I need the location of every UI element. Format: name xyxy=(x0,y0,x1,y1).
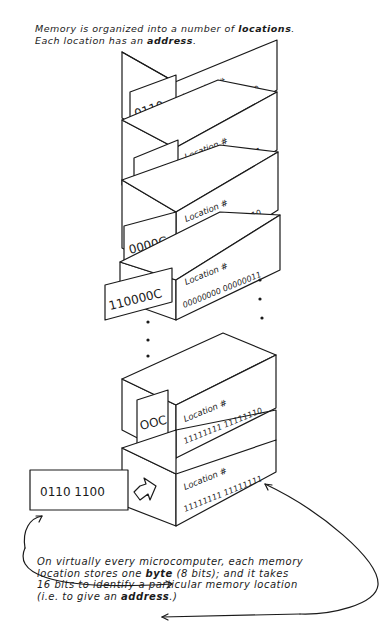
memory-diagram: 0110 Location # 00000000 00000000 1111 L… xyxy=(0,0,392,641)
memory-block-4: OOC Location # 11111111 11111110 xyxy=(122,333,276,458)
byte-card: 0110 1100 xyxy=(30,470,128,510)
bottom-caption: On virtually every microcomputer, each m… xyxy=(37,556,337,602)
bottom-caption-line-3: 16 bits to identify a particular memory … xyxy=(37,579,337,591)
bottom-caption-line-1: On virtually every microcomputer, each m… xyxy=(37,556,337,568)
bottom-caption-line-4: (i.e. to give an address.) xyxy=(37,591,337,603)
arrow-loop-address xyxy=(162,614,300,617)
bottom-caption-line-2: location stores one byte (8 bits); and i… xyxy=(37,568,337,580)
byte-card-value: 0110 1100 xyxy=(40,485,105,499)
